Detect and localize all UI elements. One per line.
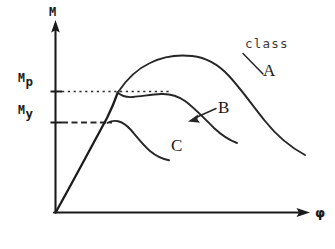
curve-label-b: B — [218, 99, 229, 116]
y-level-label-my: My — [18, 104, 32, 117]
x-axis-label: φ — [315, 206, 325, 219]
moment-rotation-figure: M φ Mp My class A B C — [0, 0, 335, 249]
curve-label-a: A — [263, 62, 275, 79]
y-level-label-mp-subscript: p — [25, 74, 33, 89]
y-level-label-mp: Mp — [18, 72, 32, 85]
y-level-label-my-base: M — [18, 103, 25, 117]
curve-shared-elastic-branch — [56, 93, 118, 213]
y-level-label-my-subscript: y — [25, 106, 33, 121]
curve-label-c: C — [171, 137, 182, 154]
curve-class-a — [118, 56, 305, 155]
class-caption: class — [245, 38, 289, 51]
y-level-label-mp-base: M — [18, 71, 25, 85]
pointer-line-class-a — [243, 54, 263, 75]
y-axis-label: M — [49, 6, 56, 18]
curve-class-c — [108, 121, 170, 160]
